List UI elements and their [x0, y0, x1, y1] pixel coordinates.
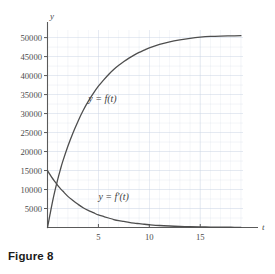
x-tick-label: 5: [96, 232, 100, 242]
figure-container: 5000100001500020000250003000035000400004…: [0, 0, 275, 274]
curve-label-f-prime: y = f'(t): [97, 191, 129, 203]
figure-caption: Figure 8: [8, 250, 54, 262]
y-tick-label: 45000: [21, 52, 42, 62]
grid-lines: [48, 30, 244, 228]
y-tick-label: 25000: [21, 128, 42, 138]
y-tick-label: 5000: [25, 204, 42, 214]
axes: [48, 22, 259, 228]
y-tick-label: 35000: [21, 90, 42, 100]
chart-canvas: 5000100001500020000250003000035000400004…: [0, 0, 275, 274]
y-tick-label: 10000: [21, 185, 42, 195]
axis-tick-labels: 5000100001500020000250003000035000400004…: [21, 33, 205, 242]
axis-names: yt: [49, 11, 265, 232]
x-tick-label: 15: [196, 232, 205, 242]
curve-label-f: y = f(t): [87, 93, 117, 105]
y-tick-label: 15000: [21, 166, 42, 176]
y-tick-label: 30000: [21, 109, 42, 119]
y-tick-label: 20000: [21, 147, 42, 157]
y-tick-label: 50000: [21, 33, 42, 43]
x-tick-label: 10: [145, 232, 154, 242]
curve-f: [48, 36, 241, 228]
y-axis-label: y: [49, 11, 54, 21]
y-tick-label: 40000: [21, 71, 42, 81]
data-curves: [48, 36, 241, 228]
x-axis-label: t: [262, 222, 265, 232]
